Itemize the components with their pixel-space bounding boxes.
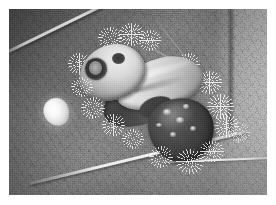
- setae-tuft-head-lower: [71, 77, 93, 97]
- rear-pale-spot: [190, 126, 196, 131]
- rear-pale-spot: [183, 104, 188, 108]
- setae-tuft-mid-left-c: [122, 129, 144, 149]
- setae-tuft-rear-tip: [200, 141, 224, 163]
- image-title: Spiny caterpillar resting on a leaf: [0, 0, 1, 1]
- setae-tuft-rear-bottom-b: [149, 146, 173, 168]
- head-dark-ring-inner: [89, 61, 102, 74]
- setae-tuft-mid-left-b: [102, 114, 126, 136]
- photo-frame: Spiny caterpillar resting on a leaf: [0, 0, 276, 205]
- photograph: [9, 9, 267, 195]
- setae-tuft-rear-right-b: [214, 114, 240, 137]
- setae-tuft-mid-left-a: [81, 97, 105, 119]
- setae-tuft-head-top-c: [139, 30, 161, 50]
- caterpillar: [71, 33, 241, 178]
